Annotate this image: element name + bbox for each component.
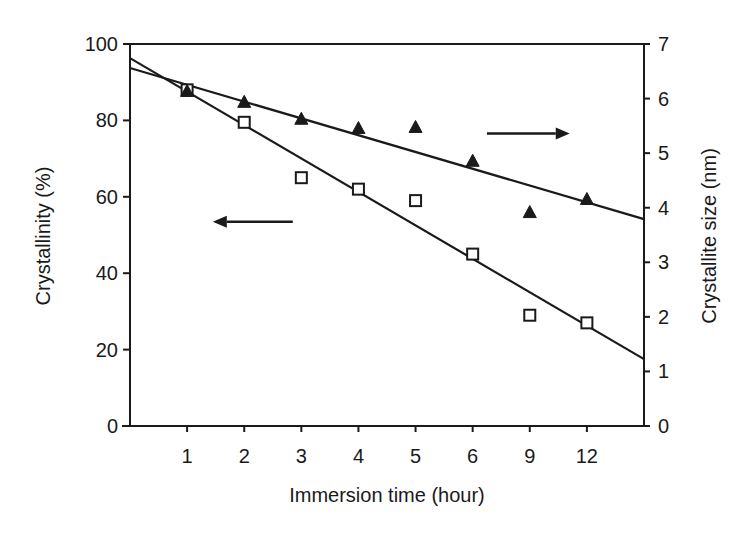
axis-arrows	[213, 127, 570, 227]
crystallinity-point	[296, 172, 307, 183]
left-tick-label: 100	[85, 33, 118, 55]
right-tick-label: 7	[658, 33, 669, 55]
right-tick-label: 4	[658, 197, 669, 219]
data-markers	[181, 84, 594, 328]
right-axis-title: Crystallite size (nm)	[698, 148, 720, 324]
x-tick-label: 1	[182, 445, 193, 467]
crystallinity-point	[581, 317, 592, 328]
right-axis-ticks: 01234567	[644, 33, 669, 437]
x-tick-label: 6	[467, 445, 478, 467]
crystallite-size-point	[352, 122, 365, 134]
crystallinity-point	[353, 184, 364, 195]
x-tick-label: 2	[239, 445, 250, 467]
right-tick-label: 5	[658, 142, 669, 164]
crystallinity-point	[524, 310, 535, 321]
right-tick-label: 6	[658, 88, 669, 110]
crystallinity-point	[467, 249, 478, 260]
x-tick-label: 5	[410, 445, 421, 467]
right-tick-label: 2	[658, 306, 669, 328]
x-axis-title: Immersion time (hour)	[289, 484, 485, 506]
crystallite-size-point	[523, 206, 536, 218]
crystallinity-fit-line	[130, 58, 644, 359]
x-tick-label: 3	[296, 445, 307, 467]
x-tick-label: 12	[576, 445, 598, 467]
x-tick-label: 9	[524, 445, 535, 467]
left-tick-label: 20	[96, 339, 118, 361]
fit-lines	[130, 58, 644, 359]
left-tick-label: 80	[96, 109, 118, 131]
left-axis-arrow-head	[213, 216, 227, 228]
left-tick-label: 60	[96, 186, 118, 208]
crystallite-size-point	[580, 192, 593, 204]
x-axis-ticks: 123456912	[182, 426, 598, 467]
plot-frame	[122, 44, 648, 426]
crystallinity-point	[239, 117, 250, 128]
crystallite-size-point	[466, 154, 479, 166]
crystallite-size-point	[295, 112, 308, 124]
left-tick-label: 0	[107, 415, 118, 437]
x-tick-label: 4	[353, 445, 364, 467]
dual-axis-chart: 020406080100 01234567 123456912 Immersio…	[0, 0, 754, 537]
right-tick-label: 1	[658, 360, 669, 382]
left-axis-title: Crystallinity (%)	[32, 167, 54, 306]
left-axis-ticks: 020406080100	[85, 33, 130, 437]
right-axis-arrow-head	[556, 127, 570, 139]
left-tick-label: 40	[96, 262, 118, 284]
crystallite-size-fit-line	[130, 68, 644, 219]
right-tick-label: 0	[658, 415, 669, 437]
right-tick-label: 3	[658, 251, 669, 273]
crystallite-size-point	[409, 120, 422, 132]
crystallinity-point	[410, 195, 421, 206]
